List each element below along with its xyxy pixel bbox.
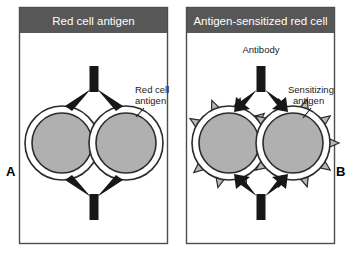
panel-b: Antigen-sensitized red cell (186, 8, 339, 244)
panel-a-header-label: Red cell antigen (52, 15, 134, 27)
panel-a: Red cell antigen R (20, 8, 170, 244)
antibody-label: Antibody (243, 44, 280, 55)
panel-letter-b: B (336, 165, 345, 178)
panel-letter-a: A (6, 165, 15, 178)
panel-b-header-label: Antigen-sensitized red cell (193, 15, 327, 27)
red-cell-antigen-label-line2: antigen (135, 95, 166, 106)
red-cell-antigen-label-line1: Red cell (135, 84, 169, 95)
sensitizing-antigen-label-line1: Sensitizing (288, 84, 334, 95)
red-cell (25, 106, 99, 180)
figure-root: A B (0, 0, 356, 256)
red-cell (89, 106, 163, 180)
diagram-canvas: Red cell antigen R (0, 0, 356, 256)
sensitizing-antigen-label-line2: antigen (293, 95, 324, 106)
